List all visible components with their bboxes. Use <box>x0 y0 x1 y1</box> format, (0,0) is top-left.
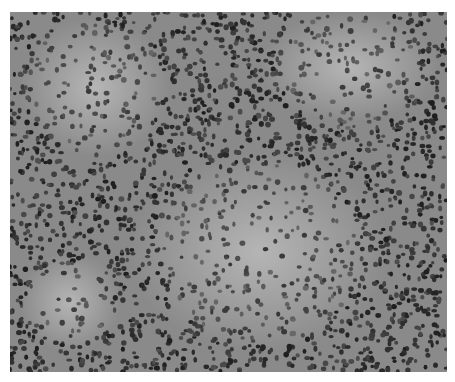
micrograph-image <box>10 12 447 372</box>
tissue-texture <box>10 12 447 372</box>
